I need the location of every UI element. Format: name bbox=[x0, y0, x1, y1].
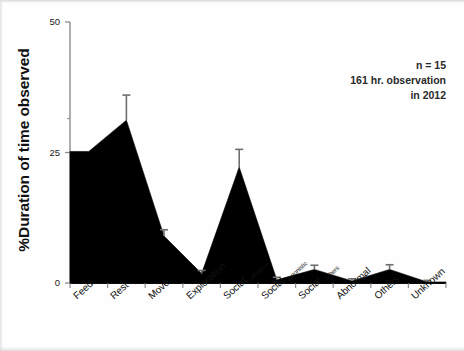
chart-plot-area bbox=[0, 0, 464, 351]
chart-figure: %Duration of time observed 02550 FeedRes… bbox=[0, 0, 464, 351]
annotation-line-year: in 2012 bbox=[350, 88, 446, 103]
annotation-line-hours: 161 hr. observation bbox=[350, 73, 446, 88]
chart-annotation: n = 15 161 hr. observation in 2012 bbox=[350, 58, 446, 103]
y-tick-label: 50 bbox=[34, 16, 60, 27]
annotation-line-n: n = 15 bbox=[350, 58, 446, 73]
y-axis bbox=[65, 22, 70, 283]
y-axis-ticks bbox=[65, 22, 70, 283]
y-tick-label: 25 bbox=[34, 147, 60, 158]
y-tick-label: 0 bbox=[34, 277, 60, 288]
